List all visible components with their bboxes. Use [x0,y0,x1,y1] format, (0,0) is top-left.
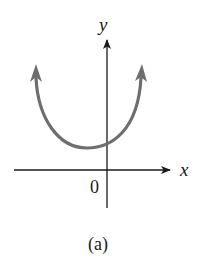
figure-caption: (a) [88,234,108,255]
y-axis-label: y [97,14,108,35]
parabola-curve [36,78,141,148]
parabola-diagram: y x 0 (a) [0,0,200,266]
x-axis-label: x [179,159,189,180]
origin-label: 0 [90,177,99,197]
